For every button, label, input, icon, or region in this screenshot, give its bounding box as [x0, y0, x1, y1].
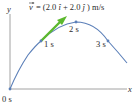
label-3s: 3 s [96, 39, 106, 49]
velocity-equation: v = (2.0 î + 2.0 ĵ ) m/s [29, 2, 104, 12]
vector-v: v [29, 2, 33, 12]
point-3s [107, 40, 110, 43]
projectile-diagram: y x 0 s 1 s 2 s 3 s v = (2.0 î + 2.0 ĵ )… [0, 0, 133, 112]
y-axis-label: y [6, 4, 11, 14]
label-0s: 0 s [2, 94, 12, 104]
velocity-vector-arrow [41, 16, 67, 41]
point-0s [9, 88, 12, 91]
j-hat: ĵ [82, 2, 86, 12]
eq-plus: + 2.0 [63, 2, 81, 12]
label-1s: 1 s [44, 39, 54, 49]
i-hat: î [58, 2, 61, 12]
eq-equals: = (2.0 [36, 2, 56, 12]
point-2s [75, 21, 78, 24]
label-2s: 2 s [69, 24, 79, 34]
point-1s [40, 40, 43, 43]
x-axis-label: x [127, 84, 132, 94]
eq-units: ) m/s [87, 2, 104, 12]
